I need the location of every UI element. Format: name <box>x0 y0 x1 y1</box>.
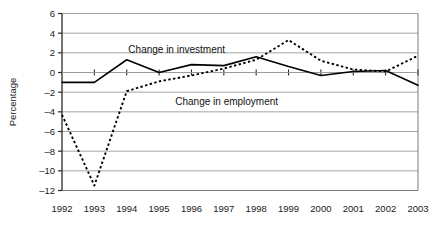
y-tick-label-0: 0 <box>50 67 55 78</box>
y-tick-label--2: –2 <box>44 87 55 98</box>
x-tick-label-2000: 2000 <box>310 203 331 214</box>
y-tick-label--10: –10 <box>39 165 55 176</box>
x-tick-label-1992: 1992 <box>51 203 72 214</box>
line-chart: 6420–2–4–6–8–10–121992199319941995199619… <box>0 0 432 236</box>
y-tick-label-4: 4 <box>50 28 55 39</box>
annotation-change-in-employment: Change in employment <box>175 96 278 107</box>
y-tick-label--12: –12 <box>39 185 55 196</box>
chart-container: 6420–2–4–6–8–10–121992199319941995199619… <box>0 0 432 236</box>
y-tick-label-2: 2 <box>50 47 55 58</box>
x-tick-label-2001: 2001 <box>343 203 364 214</box>
y-tick-label--4: –4 <box>44 106 55 117</box>
x-tick-label-1996: 1996 <box>181 203 202 214</box>
annotation-change-in-investment: Change in investment <box>128 44 225 55</box>
x-tick-label-1993: 1993 <box>84 203 105 214</box>
y-tick-label-6: 6 <box>50 8 55 19</box>
y-tick-label--8: –8 <box>44 146 55 157</box>
x-tick-label-1998: 1998 <box>246 203 267 214</box>
x-tick-label-2003: 2003 <box>407 203 428 214</box>
x-tick-label-2002: 2002 <box>375 203 396 214</box>
x-tick-label-1995: 1995 <box>149 203 170 214</box>
x-tick-label-1994: 1994 <box>116 203 137 214</box>
y-axis-title: Percentage <box>7 78 18 127</box>
x-tick-label-1997: 1997 <box>213 203 234 214</box>
y-tick-label--6: –6 <box>44 126 55 137</box>
x-tick-label-1999: 1999 <box>278 203 299 214</box>
